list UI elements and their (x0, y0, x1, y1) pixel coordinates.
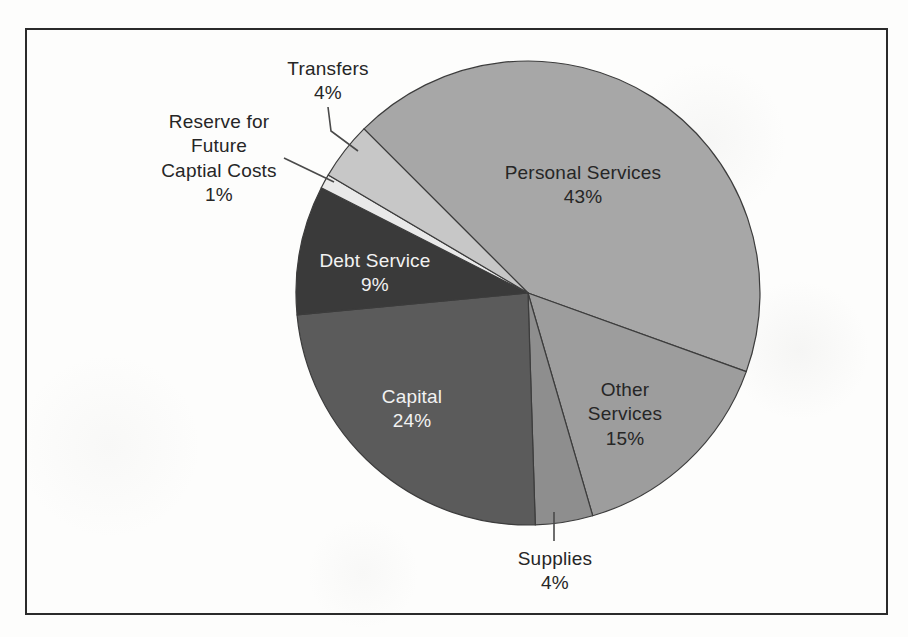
slice-label-other-services-line-2: Services (588, 403, 662, 424)
slice-label-reserve-for-future-captial-costs-line-2: Future (191, 135, 247, 156)
pie-chart: Personal Services43%OtherServices15%Supp… (0, 0, 908, 637)
slice-label-capital-line-2: 24% (393, 410, 432, 431)
leader-line-reserve-for-future-captial-costs (284, 158, 334, 182)
slice-label-other-services-line-3: 15% (606, 428, 645, 449)
pie-slice-capital (297, 293, 535, 525)
slice-label-other-services-line-1: Other (601, 379, 650, 400)
slice-label-debt-service-line-1: Debt Service (319, 250, 430, 271)
scanned-page: Personal Services43%OtherServices15%Supp… (0, 0, 908, 637)
slice-label-reserve-for-future-captial-costs-line-1: Reserve for (169, 111, 270, 132)
slice-label-personal-services-line-2: 43% (564, 186, 603, 207)
slice-label-reserve-for-future-captial-costs-line-4: 1% (205, 184, 233, 205)
slice-label-capital-line-1: Capital (382, 386, 443, 407)
slice-label-supplies-line-1: Supplies (518, 548, 592, 569)
slice-label-supplies-line-2: 4% (541, 572, 569, 593)
slice-label-transfers-line-1: Transfers (287, 58, 368, 79)
slice-label-personal-services-line-1: Personal Services (505, 162, 662, 183)
slice-label-reserve-for-future-captial-costs-line-3: Captial Costs (161, 160, 277, 181)
slice-label-debt-service-line-2: 9% (361, 274, 389, 295)
slice-label-transfers-line-2: 4% (314, 82, 342, 103)
